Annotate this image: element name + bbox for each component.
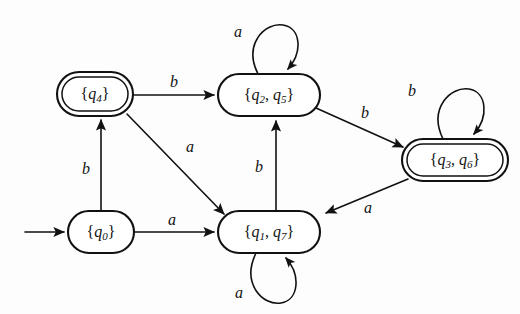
loop-path-q1q7 bbox=[251, 253, 296, 303]
state-label-q3q6: {q3, q6} bbox=[430, 151, 480, 170]
state-node-q0[interactable]: {q0} bbox=[68, 211, 134, 253]
edge-q2q5-a-self-loop[interactable]: a bbox=[234, 23, 298, 74]
state-node-q3q6[interactable]: {q3, q6} bbox=[402, 139, 508, 181]
edge-q3q6-b-self-loop[interactable]: b bbox=[408, 82, 484, 139]
edge-q0-a-q1q7[interactable]: a bbox=[134, 211, 214, 232]
edge-label-q0-a-q1q7: a bbox=[168, 211, 176, 228]
edge-q3q6-a-q1q7[interactable]: a bbox=[326, 179, 408, 216]
edge-line-q2q5-b-q3q6 bbox=[316, 108, 403, 147]
edge-q4-b-q2q5[interactable]: b bbox=[133, 73, 214, 95]
state-label-q4: {q4} bbox=[81, 85, 110, 104]
state-label-q2q5: {q2, q5} bbox=[244, 86, 294, 105]
state-node-q1q7[interactable]: {q1, q7} bbox=[218, 211, 320, 253]
edge-q2q5-b-q3q6[interactable]: b bbox=[316, 104, 403, 147]
state-node-q2q5[interactable]: {q2, q5} bbox=[218, 74, 320, 116]
edge-label-q3q6-b-self-loop: b bbox=[408, 82, 416, 99]
edge-label-q4-a-q1q7: a bbox=[186, 138, 194, 155]
nodes-layer: {q4} {q2, q5} {q3, q6} bbox=[57, 72, 508, 253]
state-diagram-figure: q4 (vertical) --> b q1q7 (horizontal) --… bbox=[0, 0, 520, 314]
edge-label-q2q5-b-q3q6: b bbox=[361, 104, 369, 121]
state-node-q4[interactable]: {q4} bbox=[57, 72, 133, 116]
edge-line-q4-a-q1q7 bbox=[127, 114, 224, 214]
state-label-q0: {q0} bbox=[87, 223, 116, 242]
state-label-q1q7: {q1, q7} bbox=[244, 223, 294, 242]
edge-label-q1q7-b-q2q5: b bbox=[255, 158, 263, 175]
edge-label-q0-b-q4: b bbox=[82, 160, 90, 177]
loop-path-q3q6 bbox=[438, 89, 484, 139]
edge-label-q1q7-a-self-loop: a bbox=[235, 284, 243, 301]
loop-path-q2q5 bbox=[253, 25, 298, 74]
edge-label-q3q6-a-q1q7: a bbox=[364, 199, 372, 216]
state-diagram-canvas: q4 (vertical) --> b q1q7 (horizontal) --… bbox=[0, 0, 520, 314]
edge-label-q2q5-a-self-loop: a bbox=[234, 23, 242, 40]
edge-label-q4-b-q2q5: b bbox=[170, 73, 178, 90]
edge-q0-b-q4[interactable]: b bbox=[82, 120, 101, 211]
edge-q4-a-q1q7[interactable]: a bbox=[127, 114, 224, 214]
edge-q1q7-b-q2q5[interactable]: b bbox=[255, 121, 276, 211]
edge-q1q7-a-self-loop[interactable]: a bbox=[235, 253, 296, 303]
